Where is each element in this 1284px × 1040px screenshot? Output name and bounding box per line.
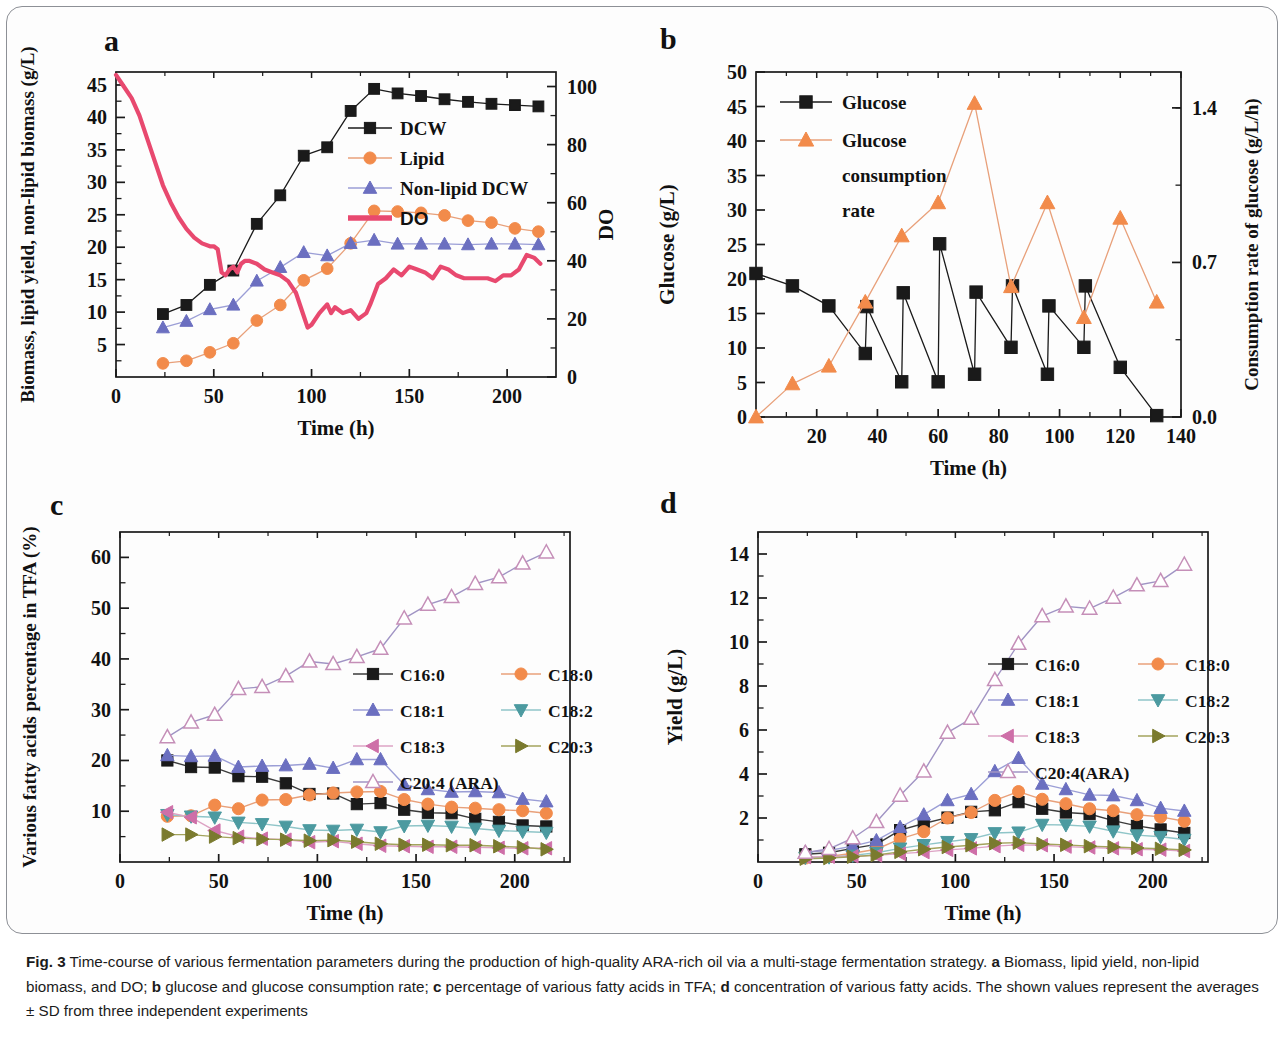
y-tick-label: 0 <box>737 406 747 428</box>
x-axis: 050100150200 <box>111 72 522 407</box>
y-tick-label-right: 0 <box>567 366 577 388</box>
legend-marker <box>1001 729 1013 742</box>
y-axis-left: 51015202530354045 <box>87 74 125 361</box>
legend-marker <box>516 739 528 752</box>
series-marker <box>298 274 310 286</box>
series-marker <box>274 299 286 311</box>
series-marker <box>416 91 427 102</box>
x-tick-label: 150 <box>394 385 424 407</box>
legend-marker <box>798 132 813 146</box>
legend-marker <box>363 181 376 193</box>
series-marker <box>439 210 451 222</box>
series-marker <box>462 215 474 227</box>
series-marker <box>933 238 945 250</box>
legend-label: C18:1 <box>400 701 445 721</box>
series-marker <box>1076 310 1091 324</box>
series-marker <box>351 799 362 810</box>
y-axis-right: 020406080100 <box>547 76 597 388</box>
y-tick-label: 6 <box>739 719 749 741</box>
legend-item-c20-3: C20:3 <box>501 737 593 757</box>
panel-b-chart: 20406080100120140Time (h)051015202530354… <box>640 10 1280 470</box>
legend-label: C18:0 <box>548 665 593 685</box>
series-marker <box>1177 557 1192 570</box>
y-tick-label-right: 20 <box>567 308 587 330</box>
series-marker <box>462 238 475 250</box>
legend-item-c18-1: C18:1 <box>353 701 445 721</box>
legend-label: Glucose <box>842 130 906 151</box>
y-tick-label: 10 <box>727 337 747 359</box>
x-tick-label: 140 <box>1166 425 1196 447</box>
caption-main-text: Time-course of various fermentation para… <box>66 953 992 970</box>
series-glucose <box>750 238 1163 422</box>
panel-a: a 050100150200Time (h)51015202530354045B… <box>8 10 638 470</box>
series-marker <box>1035 608 1050 621</box>
series-marker <box>785 376 800 390</box>
series-marker <box>279 669 294 682</box>
series-marker <box>492 570 507 583</box>
y-tick-label: 20 <box>87 236 107 258</box>
legend-item-c18-3: C18:3 <box>353 737 445 757</box>
legend-label: DO <box>400 208 429 229</box>
figure-caption: Fig. 3 Time-course of various fermentati… <box>26 950 1264 1024</box>
legend-label: C18:3 <box>1035 727 1080 747</box>
series-marker <box>415 237 428 249</box>
legend-item-dcw: DCW <box>348 118 446 139</box>
y-axis-title: Various fatty acids percentage in TFA (%… <box>19 526 41 867</box>
y-axis-title-right: Consumption rate of glucose (g/L/h) <box>1241 98 1263 390</box>
series-marker <box>1106 590 1121 603</box>
x-tick-label: 100 <box>1045 425 1075 447</box>
legend-item-c18-2: C18:2 <box>1138 691 1230 711</box>
caption-b-text: glucose and glucose consumption rate; <box>161 978 433 995</box>
series-marker <box>1178 815 1190 827</box>
series-marker <box>1151 409 1163 421</box>
series-marker <box>1043 300 1055 312</box>
series-marker <box>251 218 262 229</box>
legend-label: C20:4 (ARA) <box>400 773 499 793</box>
legend-item-c16-0: C16:0 <box>353 665 445 685</box>
y-tick-label: 5 <box>737 372 747 394</box>
legend-label: C18:2 <box>1185 691 1230 711</box>
legend-marker <box>367 668 378 679</box>
series-marker <box>255 679 270 692</box>
series-marker <box>1013 797 1024 808</box>
series-marker <box>375 798 386 809</box>
x-tick-label: 0 <box>111 385 121 407</box>
y-tick-label-right: 60 <box>567 192 587 214</box>
series-marker <box>275 190 286 201</box>
legend-label: Lipid <box>400 148 445 169</box>
series-marker <box>180 314 193 326</box>
series-marker <box>917 808 930 820</box>
series-marker <box>256 794 268 806</box>
x-tick-label: 100 <box>297 385 327 407</box>
y-tick-label: 30 <box>87 171 107 193</box>
series-marker <box>303 789 315 801</box>
series-marker <box>444 589 459 602</box>
panel-c-legend: C16:0C18:0C18:1C18:2C18:3C20:3C20:4 (ARA… <box>353 665 593 793</box>
y-tick-label: 35 <box>727 165 747 187</box>
y-tick-label: 10 <box>729 631 749 653</box>
y-tick-label: 40 <box>91 648 111 670</box>
series-marker <box>1084 803 1096 815</box>
series-marker <box>1078 341 1090 353</box>
legend-marker <box>364 122 375 133</box>
series-marker <box>297 246 310 258</box>
series-marker <box>303 757 316 769</box>
series-marker <box>894 228 909 242</box>
legend-marker <box>366 703 379 715</box>
series-marker <box>1079 280 1091 292</box>
series-marker <box>463 96 474 107</box>
x-tick-label: 0 <box>115 870 125 892</box>
series-marker <box>369 83 380 94</box>
series-marker <box>446 801 458 813</box>
series-marker <box>486 217 498 229</box>
y-tick-label-right: 40 <box>567 250 587 272</box>
series-marker <box>1131 809 1143 821</box>
series-line <box>163 211 538 364</box>
series-do <box>116 75 540 328</box>
legend-label: C16:0 <box>400 665 445 685</box>
series-marker <box>1041 368 1053 380</box>
series-marker <box>185 761 196 772</box>
series-marker <box>392 88 403 99</box>
y-tick-label-right: 1.4 <box>1192 97 1217 119</box>
series-marker <box>1114 361 1126 373</box>
